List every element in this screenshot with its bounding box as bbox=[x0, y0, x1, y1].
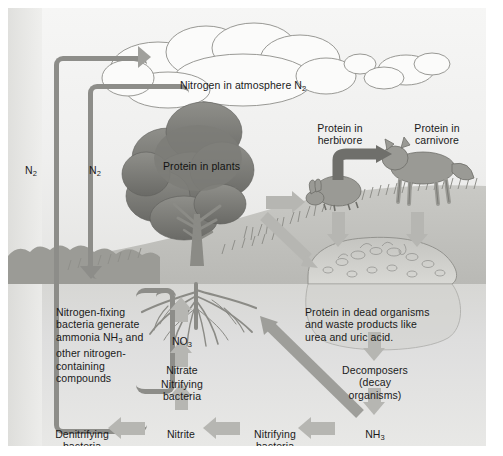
label-protein-in-carnivore: Protein in carnivore bbox=[404, 109, 470, 147]
label-decomposers: Decomposers (decay organisms) bbox=[330, 351, 420, 401]
arrow-nitrate-to-roots-shaft bbox=[175, 308, 188, 322]
arrow-herbivore-to-dead-shaft bbox=[332, 212, 345, 234]
label-n2-right: N2 bbox=[89, 151, 101, 180]
label-protein-in-plants: Protein in plants bbox=[163, 147, 240, 172]
arrow-plants-to-herbivore-shaft bbox=[266, 196, 292, 209]
diagram-scene: Nitrogen in atmosphere N2 N2 N2 Protein … bbox=[8, 8, 486, 446]
arrow-nitrifying-to-nitrite-shaft bbox=[216, 422, 240, 435]
label-ammonia: NH3 Ammonia bbox=[338, 415, 412, 446]
label-atmosphere: Nitrogen in atmosphere N2 bbox=[180, 66, 306, 95]
label-nitrifying-bacteria-upper: Nitrifying bacteria bbox=[148, 365, 216, 403]
arrow-nitrite-to-denitrifying-shaft bbox=[121, 422, 145, 435]
arrow-nitrate-to-roots-head bbox=[170, 297, 192, 310]
arrow-carnivore-to-dead-shaft bbox=[411, 212, 424, 234]
pipe-atmosphere-to-nitrogen-fixing bbox=[88, 84, 189, 279]
label-nitrite: Nitrite –NO2 bbox=[151, 415, 211, 446]
arrowhead-to-nitrogen-fixing bbox=[80, 266, 102, 279]
n2-right-subscript: 2 bbox=[97, 169, 101, 178]
arrow-plants-to-herbivore-head bbox=[292, 191, 305, 213]
arrow-carnivore-to-dead-head bbox=[406, 234, 428, 247]
nitrogen-cycle-figure: Nitrogen in atmosphere N2 N2 N2 Protein … bbox=[0, 0, 503, 456]
label-protein-in-herbivore: Protein in herbivore bbox=[307, 109, 373, 147]
arrow-decomposers-to-ammonia-head bbox=[363, 402, 385, 415]
arrow-ammonia-to-nitrifying-shaft bbox=[311, 422, 335, 435]
label-nitrogen-fixing-bacteria: Nitrogen-fixing bacteria generate ammoni… bbox=[56, 293, 152, 385]
label-dead-organisms: Protein in dead organisms and waste prod… bbox=[305, 293, 465, 343]
nitrate-subscript: 3 bbox=[188, 340, 192, 349]
label-denitrifying-bacteria: Denitrifying bacteria bbox=[46, 415, 118, 446]
label-n2-left: N2 bbox=[25, 151, 37, 180]
arrowhead-to-atmosphere-outer bbox=[138, 46, 151, 68]
atmosphere-subscript: 2 bbox=[302, 84, 306, 93]
n2-left-subscript: 2 bbox=[33, 169, 37, 178]
ammonia-subscript: 3 bbox=[381, 433, 385, 442]
label-nitrifying-bacteria-lower: Nitrifying bacteria bbox=[241, 415, 309, 446]
arrow-herbivore-to-dead-head bbox=[327, 234, 349, 247]
